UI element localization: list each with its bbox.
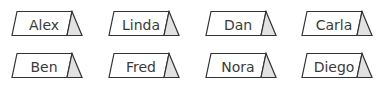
name-card: Ben bbox=[10, 52, 90, 82]
name-card: Dan bbox=[204, 10, 284, 40]
name-card: Diego bbox=[300, 52, 380, 82]
name-card: Alex bbox=[10, 10, 90, 40]
card-name: Nora bbox=[210, 58, 266, 76]
card-name: Carla bbox=[306, 16, 362, 34]
card-name: Ben bbox=[16, 58, 72, 76]
name-card: Fred bbox=[107, 52, 187, 82]
name-card: Linda bbox=[107, 10, 187, 40]
card-name: Fred bbox=[113, 58, 169, 76]
card-name: Dan bbox=[210, 16, 266, 34]
card-name: Linda bbox=[113, 16, 169, 34]
card-name: Diego bbox=[306, 58, 362, 76]
card-name: Alex bbox=[16, 16, 72, 34]
name-card: Nora bbox=[204, 52, 284, 82]
name-card: Carla bbox=[300, 10, 380, 40]
